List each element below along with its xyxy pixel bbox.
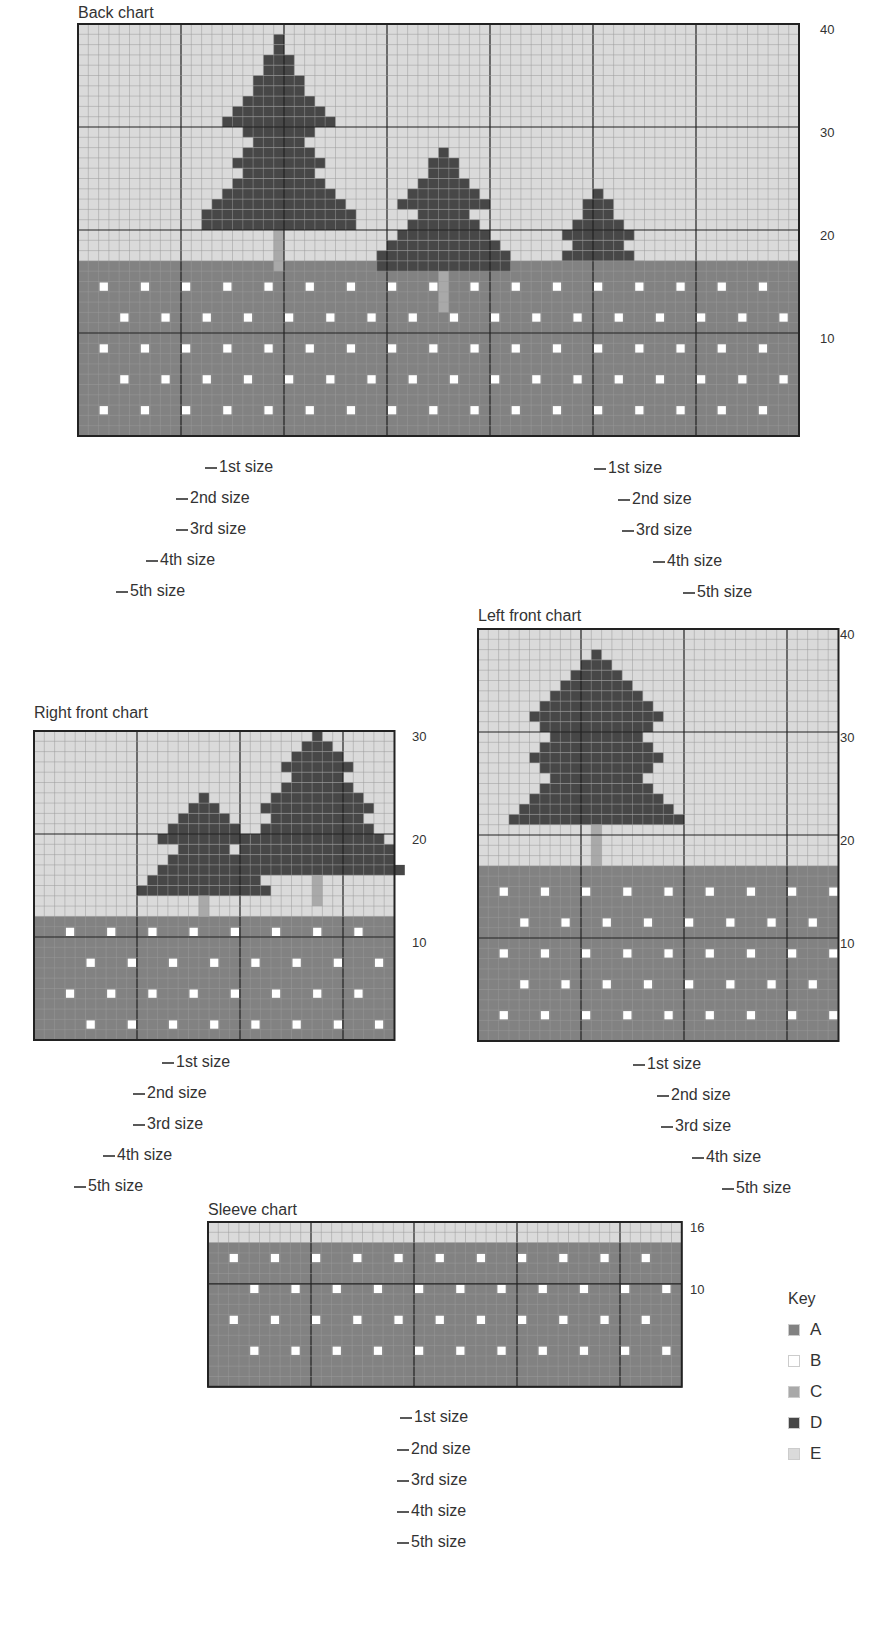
- key-item-d: D: [788, 1407, 822, 1438]
- sleeve-size-label-1: 1st size: [414, 1408, 468, 1426]
- right-front-size-label-5: 5th size: [88, 1177, 143, 1195]
- right-front-chart-title: Right front chart: [34, 704, 148, 722]
- right-front-row-label-20: 20: [412, 832, 426, 847]
- back-row-label-30: 30: [820, 125, 834, 140]
- sleeve-size-label-4: 4th size: [411, 1502, 466, 1520]
- key-item-e: E: [788, 1438, 822, 1469]
- right-front-row-label-30: 30: [412, 729, 426, 744]
- left-front-row-label-10: 10: [840, 936, 854, 951]
- back-size-label-8: 3rd size: [636, 521, 692, 539]
- swatch-d-icon: [788, 1417, 800, 1429]
- swatch-c-icon: [788, 1386, 800, 1398]
- sleeve-row-label-16: 16: [690, 1220, 704, 1235]
- back-size-label-1: 1st size: [219, 458, 273, 476]
- swatch-a-icon: [788, 1324, 800, 1336]
- charts-canvas: [0, 0, 893, 1628]
- sleeve-size-label-2: 2nd size: [411, 1440, 471, 1458]
- left-front-row-label-40: 40: [840, 627, 854, 642]
- back-size-label-5: 5th size: [130, 582, 185, 600]
- sleeve-row-label-10: 10: [690, 1282, 704, 1297]
- sleeve-size-label-3: 3rd size: [411, 1471, 467, 1489]
- key-title: Key: [788, 1290, 822, 1308]
- right-front-size-label-4: 4th size: [117, 1146, 172, 1164]
- left-front-size-label-2: 2nd size: [671, 1086, 731, 1104]
- sleeve-size-label-5: 5th size: [411, 1533, 466, 1551]
- right-front-size-label-3: 3rd size: [147, 1115, 203, 1133]
- left-front-row-label-20: 20: [840, 833, 854, 848]
- key-item-b: B: [788, 1345, 822, 1376]
- back-size-label-4: 4th size: [160, 551, 215, 569]
- sleeve-chart-grid: [208, 1222, 682, 1543]
- left-front-row-label-30: 30: [840, 730, 854, 745]
- sleeve-chart-title: Sleeve chart: [208, 1201, 297, 1219]
- back-size-label-3: 3rd size: [190, 520, 246, 538]
- left-front-size-label-3: 3rd size: [675, 1117, 731, 1135]
- left-front-size-label-5: 5th size: [736, 1179, 791, 1197]
- swatch-e-icon: [788, 1448, 800, 1460]
- right-front-size-label-1: 1st size: [176, 1053, 230, 1071]
- right-front-row-label-10: 10: [412, 935, 426, 950]
- key-item-a: A: [788, 1314, 822, 1345]
- left-front-size-label-1: 1st size: [647, 1055, 701, 1073]
- left-front-chart-title: Left front chart: [478, 607, 581, 625]
- back-size-label-6: 1st size: [608, 459, 662, 477]
- back-row-label-10: 10: [820, 331, 834, 346]
- right-front-size-label-2: 2nd size: [147, 1084, 207, 1102]
- key-item-c: C: [788, 1376, 822, 1407]
- swatch-b-icon: [788, 1355, 800, 1367]
- back-size-label-7: 2nd size: [632, 490, 692, 508]
- back-chart-title: Back chart: [78, 4, 154, 22]
- back-size-label-9: 4th size: [667, 552, 722, 570]
- back-size-label-10: 5th size: [697, 583, 752, 601]
- back-size-label-2: 2nd size: [190, 489, 250, 507]
- left-front-chart-grid: [478, 629, 839, 1189]
- right-front-chart-grid: [34, 731, 405, 1187]
- left-front-size-label-4: 4th size: [706, 1148, 761, 1166]
- back-row-label-40: 40: [820, 22, 834, 37]
- color-key: Key A B C D E: [788, 1290, 822, 1469]
- back-row-label-20: 20: [820, 228, 834, 243]
